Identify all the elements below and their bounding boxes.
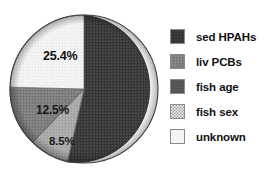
pie-svg xyxy=(6,5,162,173)
legend-label-unknown: unknown xyxy=(196,131,246,143)
legend-item-unknown[interactable]: unknown xyxy=(170,124,275,149)
legend-swatch-liv-pcbs-icon xyxy=(170,54,185,69)
legend-swatch-sed-hpahs-icon xyxy=(170,29,185,44)
legend-label-fish-sex: fish sex xyxy=(196,106,238,118)
legend-label-liv-pcbs: liv PCBs xyxy=(196,56,242,68)
pie-label-liv-pcbs: 12.5% xyxy=(36,103,69,117)
pie-label-unknown: 25.4% xyxy=(43,49,77,63)
legend-swatch-fish-sex-icon xyxy=(170,104,185,119)
legend-label-fish-age: fish age xyxy=(196,81,239,93)
pie-edge-shading xyxy=(10,15,158,163)
legend-label-sed-hpahs: sed HPAHs xyxy=(196,31,256,43)
legend-item-liv-pcbs[interactable]: liv PCBs xyxy=(170,49,275,74)
pie-chart-graphic: 25.4% 12.5% 8.5% xyxy=(6,5,162,173)
legend-item-fish-sex[interactable]: fish sex xyxy=(170,99,275,124)
legend-swatch-unknown-icon xyxy=(170,129,185,144)
pie-label-fish-age: 8.5% xyxy=(49,135,74,147)
legend-item-sed-hpahs[interactable]: sed HPAHs xyxy=(170,24,275,49)
pie-chart-figure: 25.4% 12.5% 8.5% sed HPAHs liv PCBs fish… xyxy=(0,0,277,176)
chart-legend: sed HPAHs liv PCBs fish age fish sex unk… xyxy=(170,24,275,149)
legend-swatch-fish-age-icon xyxy=(170,79,185,94)
legend-item-fish-age[interactable]: fish age xyxy=(170,74,275,99)
